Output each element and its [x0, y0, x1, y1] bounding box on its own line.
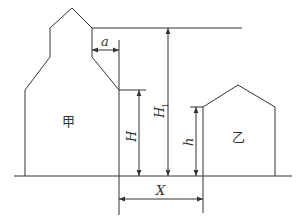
building-left-label: 甲	[62, 114, 75, 129]
dimension-h-label: h	[181, 138, 196, 146]
dimension-H1-label-group: H 1	[152, 103, 170, 119]
building-right-label: 乙	[232, 130, 245, 145]
building-spacing-diagram: a H H 1 h X 甲 乙	[0, 0, 302, 220]
dimension-X-label: X	[155, 183, 166, 198]
dimension-H1-subscript: 1	[161, 103, 170, 108]
dimension-H-label: H	[124, 130, 139, 143]
dimension-a-label: a	[101, 34, 109, 49]
